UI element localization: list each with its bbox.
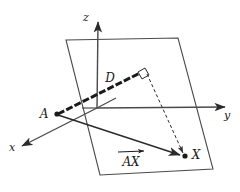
axis-y-label: y: [223, 109, 231, 122]
segment-D-label: D: [104, 71, 115, 85]
point-A-dot: [54, 111, 59, 116]
point-X-label: X: [191, 148, 201, 162]
geometry-figure: z y x A X D AX: [0, 0, 240, 192]
vector-AX-label: AX: [121, 155, 140, 169]
point-A-label: A: [39, 107, 49, 121]
dashed-projection-line: [147, 74, 183, 153]
axis-z-label: z: [82, 11, 89, 24]
vector-AX-overbar: [118, 151, 144, 152]
point-X-dot: [182, 153, 187, 158]
axis-x-label: x: [9, 141, 16, 154]
axis-x-back: [97, 98, 116, 108]
vector-A-to-X: [58, 115, 180, 155]
axis-y-line: [97, 107, 225, 108]
vector-AX-label-group: AX: [118, 151, 144, 169]
right-angle-square: [138, 68, 149, 79]
geometry-canvas: z y x A X D AX: [0, 0, 240, 192]
